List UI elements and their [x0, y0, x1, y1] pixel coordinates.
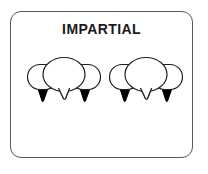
- center-main-bubble: [125, 58, 167, 100]
- center-main-bubble: [43, 58, 85, 100]
- center-main-bubble-tail-join: [140, 87, 152, 99]
- illustration: [19, 54, 186, 112]
- center-main-bubble-tail-mask: [139, 83, 153, 88]
- left-bubble-group: [25, 54, 103, 112]
- center-main-bubble-tail-mask: [57, 83, 71, 88]
- impartial-card: IMPARTIAL: [10, 11, 193, 158]
- right-bubble-group: [107, 54, 185, 112]
- page-title: IMPARTIAL: [11, 21, 192, 37]
- center-main-bubble-tail-join: [58, 87, 70, 99]
